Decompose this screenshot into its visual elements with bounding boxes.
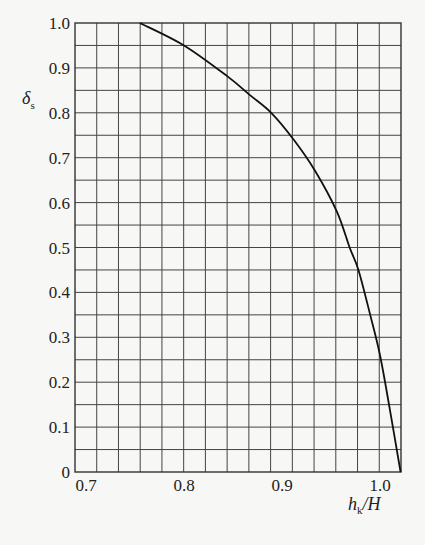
grid-lines xyxy=(75,23,401,472)
x-tick-label: 1.0 xyxy=(369,476,390,495)
y-tick-labels: 00.10.20.30.40.50.60.70.80.91.0 xyxy=(49,14,71,482)
y-tick-label: 0.2 xyxy=(49,373,70,392)
x-tick-label: 0.7 xyxy=(75,476,97,495)
y-tick-label: 0.1 xyxy=(49,418,70,437)
y-tick-label: 0.8 xyxy=(49,104,70,123)
y-tick-label: 0.4 xyxy=(49,283,71,302)
x-tick-label: 0.9 xyxy=(271,476,292,495)
y-tick-label: 1.0 xyxy=(49,14,70,33)
x-tick-label: 0.8 xyxy=(173,476,194,495)
y-tick-label: 0 xyxy=(62,463,71,482)
x-tick-labels: 0.70.80.91.0 xyxy=(75,476,390,495)
y-tick-label: 0.7 xyxy=(49,149,71,168)
y-tick-label: 0.5 xyxy=(49,239,70,258)
y-tick-label: 0.6 xyxy=(49,194,70,213)
y-tick-label: 0.9 xyxy=(49,59,70,78)
y-axis-label: δs xyxy=(22,88,35,111)
chart-svg: 00.10.20.30.40.50.60.70.80.91.0 0.70.80.… xyxy=(0,0,425,545)
x-axis-label: hk/H xyxy=(348,494,382,516)
y-tick-label: 0.3 xyxy=(49,328,70,347)
